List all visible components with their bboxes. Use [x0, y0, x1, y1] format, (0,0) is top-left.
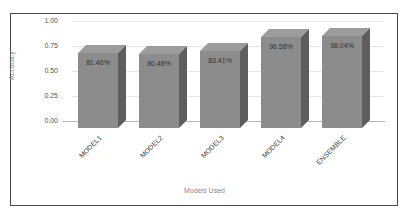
- bar-shape: [78, 45, 126, 128]
- x-axis-label: Models Used: [0, 187, 409, 194]
- bar-shape: [139, 46, 187, 128]
- bar-model1: 81.46%: [78, 45, 126, 128]
- y-axis-label: Accuracy: [8, 51, 15, 80]
- bar-ensemble: 98.04%: [322, 28, 370, 128]
- y-tick: 0.50: [30, 67, 58, 74]
- bar-model3: 83.41%: [200, 43, 248, 128]
- bar-model4: 96.58%: [261, 29, 309, 128]
- y-tick: 0.00: [30, 117, 58, 124]
- data-label: 81.46%: [78, 59, 118, 66]
- y-tick: 0.25: [30, 92, 58, 99]
- y-tick: 1.00: [30, 17, 58, 24]
- data-label: 80.48%: [139, 60, 179, 67]
- bar-model2: 80.48%: [139, 46, 187, 128]
- data-label: 98.04%: [322, 42, 362, 49]
- data-label: 83.41%: [200, 57, 240, 64]
- y-tick: 0.75: [30, 42, 58, 49]
- bar-shape: [200, 43, 248, 128]
- data-label: 96.58%: [261, 43, 301, 50]
- gridline: [72, 21, 384, 22]
